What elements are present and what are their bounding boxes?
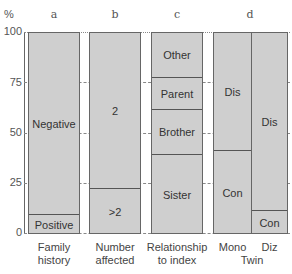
segment-label: 2 <box>112 105 118 117</box>
x-label-line: Family <box>20 241 88 254</box>
y-tick-0: 0 <box>0 226 22 238</box>
x-label-relationship: Relationship to index <box>140 241 214 267</box>
bar-family-history: Negative Positive <box>28 32 80 234</box>
x-label-line: Number <box>81 241 149 254</box>
x-label-line: Relationship <box>140 241 214 254</box>
bar-relationship: Other Parent Brother Sister <box>151 32 203 234</box>
panel-letter-d: d <box>212 8 288 21</box>
bar-twin-diz: Dis Con <box>251 32 288 234</box>
segment-label: Dis <box>262 116 278 128</box>
x-label-number-affected: Number affected <box>81 241 149 267</box>
segment-label: Con <box>222 187 242 199</box>
segment-gt2: >2 <box>90 188 140 234</box>
segment-label: Sister <box>163 189 191 201</box>
bar-twin-mono: Dis Con <box>213 32 252 234</box>
x-label-line: to index <box>140 254 214 267</box>
segment-label: Brother <box>159 126 195 138</box>
y-axis-unit: % <box>4 8 14 20</box>
segment-mono-con: Con <box>214 150 251 234</box>
y-tick-25: 25 <box>0 176 22 188</box>
segment-parent: Parent <box>152 77 202 109</box>
panel-letter-b: b <box>89 8 141 21</box>
segment-negative: Negative <box>29 33 79 214</box>
segment-sister: Sister <box>152 154 202 234</box>
segment-label: Dis <box>225 86 241 98</box>
x-label-twin: Twin <box>232 254 272 267</box>
y-tick-50: 50 <box>0 126 22 138</box>
y-tick-100: 100 <box>0 25 22 37</box>
segment-label: Parent <box>161 88 193 100</box>
segment-brother: Brother <box>152 109 202 154</box>
x-label-mono: Mono <box>213 241 252 254</box>
segment-label: Con <box>259 217 279 229</box>
segment-other: Other <box>152 33 202 77</box>
segment-label: Positive <box>35 219 74 231</box>
panel-letter-c: c <box>151 8 203 21</box>
x-label-line: history <box>20 254 88 267</box>
x-label-family-history: Family history <box>20 241 88 267</box>
bar-number-affected: 2 >2 <box>89 32 141 234</box>
segment-mono-dis: Dis <box>214 33 251 150</box>
segment-diz-dis: Dis <box>252 33 287 210</box>
y-tick-75: 75 <box>0 76 22 88</box>
x-label-diz: Diz <box>251 241 288 254</box>
segment-label: Negative <box>32 118 75 130</box>
segment-label: >2 <box>109 206 122 218</box>
segment-positive: Positive <box>29 214 79 234</box>
panel-letter-a: a <box>28 8 80 21</box>
segment-label: Other <box>163 49 191 61</box>
x-label-line: affected <box>81 254 149 267</box>
segment-2: 2 <box>90 33 140 188</box>
segment-diz-con: Con <box>252 210 287 234</box>
